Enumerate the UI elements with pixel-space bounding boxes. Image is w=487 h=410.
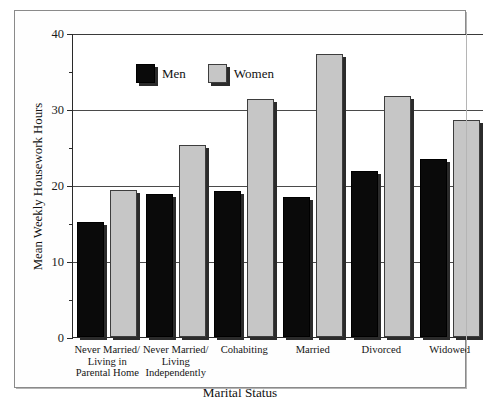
bar-men-group-4[interactable] <box>283 197 310 337</box>
legend-swatch-face <box>136 64 155 83</box>
x-tick-label-6: Widowed <box>410 344 487 356</box>
bar-women-group-1[interactable] <box>110 190 137 337</box>
bar-face <box>146 194 173 337</box>
bar-women-group-3[interactable] <box>247 99 274 337</box>
legend-item-women[interactable]: Women <box>208 64 274 83</box>
figure-frame: Mean Weekly Housework Hours 010203040 Ne… <box>14 10 466 388</box>
y-tick-label-0: 0 <box>58 332 64 345</box>
y-tick-label-20: 20 <box>52 180 65 193</box>
legend-swatch-men <box>136 64 155 83</box>
y-tick-30 <box>67 110 73 111</box>
bar-women-group-4[interactable] <box>316 54 343 337</box>
bar-men-group-3[interactable] <box>214 191 241 337</box>
y-tick-label-30: 30 <box>52 104 65 117</box>
plot-area: 010203040 Never Married/ Living in Paren… <box>72 34 483 338</box>
legend-item-men[interactable]: Men <box>136 64 186 83</box>
y-tick-0 <box>67 338 73 339</box>
bar-face <box>110 190 137 337</box>
gridline-30 <box>73 110 483 111</box>
bar-face <box>179 145 206 337</box>
bar-men-group-5[interactable] <box>351 171 378 337</box>
bar-face <box>420 159 447 337</box>
y-tick-20 <box>67 186 73 187</box>
bar-women-group-5[interactable] <box>384 96 411 337</box>
bar-face <box>214 191 241 337</box>
y-axis-title-text: Mean Weekly Housework Hours <box>32 102 47 270</box>
bar-men-group-6[interactable] <box>420 159 447 337</box>
y-minor-tick-15 <box>69 224 73 225</box>
bar-face <box>77 222 104 337</box>
bar-face <box>384 96 411 337</box>
bar-men-group-2[interactable] <box>146 194 173 337</box>
x-axis-title: Marital Status <box>15 385 465 401</box>
y-minor-tick-35 <box>69 72 73 73</box>
y-tick-10 <box>67 262 73 263</box>
bar-men-group-1[interactable] <box>77 222 104 337</box>
y-minor-tick-25 <box>69 148 73 149</box>
bar-women-group-2[interactable] <box>179 145 206 337</box>
bar-face <box>247 99 274 337</box>
y-axis-title: Mean Weekly Housework Hours <box>31 34 47 338</box>
bar-women-group-6[interactable] <box>453 120 480 337</box>
chart-legend: MenWomen <box>136 64 274 83</box>
gridline-40 <box>73 34 483 35</box>
y-tick-40 <box>67 34 73 35</box>
legend-label-women: Women <box>234 67 274 80</box>
y-minor-tick-5 <box>69 300 73 301</box>
y-tick-label-10: 10 <box>52 256 65 269</box>
legend-label-men: Men <box>162 67 186 80</box>
legend-swatch-women <box>208 64 227 83</box>
bar-face <box>316 54 343 337</box>
bar-face <box>351 171 378 337</box>
legend-swatch-face <box>208 64 227 83</box>
bar-face <box>283 197 310 337</box>
bar-face <box>453 120 480 337</box>
y-tick-label-40: 40 <box>52 28 65 41</box>
